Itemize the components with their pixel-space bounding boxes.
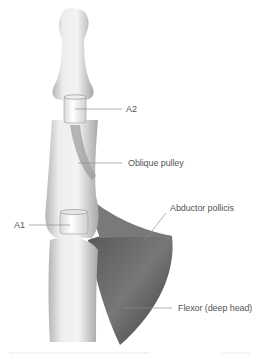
label-abductor-pollicis: Abductor pollicis: [170, 203, 234, 213]
label-a1: A1: [14, 220, 25, 230]
abductor-muscle: [92, 200, 172, 238]
thumb-anatomy-figure: A2 Oblique pulley A1 Abductor pollicis F…: [0, 0, 255, 354]
anatomy-illustration: [0, 0, 255, 354]
flexor-muscle: [88, 233, 173, 345]
label-flexor-deep-head: Flexor (deep head): [178, 303, 252, 313]
label-a2: A2: [126, 104, 137, 114]
a1-pulley: [60, 210, 88, 235]
label-oblique-pulley: Oblique pulley: [128, 158, 184, 168]
metacarpal-bone: [49, 237, 99, 342]
distal-phalanx-bone: [52, 8, 93, 100]
